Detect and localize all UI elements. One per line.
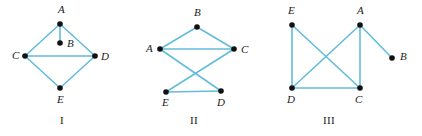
vertex-ii-C <box>231 46 237 52</box>
vertex-i-E <box>57 85 63 91</box>
vertex-label-iii-A: A <box>356 4 364 16</box>
vertex-label-ii-E: E <box>161 96 169 108</box>
edge-i-DE <box>60 56 95 88</box>
edge-iii-AB <box>360 25 392 58</box>
vertex-label-ii-C: C <box>241 43 249 55</box>
vertex-iii-D <box>289 85 295 91</box>
edge-i-AC <box>25 24 60 56</box>
vertex-label-i-C: C <box>12 49 20 61</box>
vertex-iii-C <box>357 85 363 91</box>
figure-captions-layer: IIIIII <box>60 114 335 126</box>
vertex-ii-E <box>163 89 169 95</box>
graph-figure: ABCDEBACEDEABDC IIIIII <box>0 0 422 136</box>
vertex-label-iii-D: D <box>286 93 295 105</box>
vertex-iii-A <box>357 22 363 28</box>
vertices-layer <box>22 21 395 95</box>
vertex-label-ii-A: A <box>145 42 153 54</box>
vertex-ii-A <box>157 46 163 52</box>
edge-i-CE <box>25 56 60 88</box>
vertex-label-ii-B: B <box>194 6 201 18</box>
vertex-label-iii-C: C <box>355 93 363 105</box>
edges-layer <box>25 24 392 92</box>
vertex-i-B <box>57 40 63 46</box>
vertex-i-C <box>22 53 28 59</box>
edge-ii-AD <box>160 49 221 91</box>
vertex-label-i-A: A <box>57 3 65 15</box>
edge-ii-CE <box>166 49 234 92</box>
edge-i-AD <box>60 24 95 56</box>
graph-canvas: ABCDEBACEDEABDC IIIIII <box>0 0 422 136</box>
edge-ii-BC <box>197 27 234 49</box>
vertex-label-i-B: B <box>67 37 74 49</box>
vertex-iii-B <box>389 55 395 61</box>
vertex-label-iii-B: B <box>400 50 407 62</box>
vertex-iii-E <box>289 22 295 28</box>
vertex-ii-D <box>218 88 224 94</box>
vertex-i-A <box>57 21 63 27</box>
edge-ii-AB <box>160 27 197 49</box>
vertex-label-ii-D: D <box>216 96 225 108</box>
graph-caption-i: I <box>60 114 64 126</box>
vertex-i-D <box>92 53 98 59</box>
vertex-label-i-E: E <box>56 93 64 105</box>
vertex-label-i-D: D <box>100 50 109 62</box>
vertex-ii-B <box>194 24 200 30</box>
edge-ii-ED <box>166 91 221 92</box>
graph-caption-iii: III <box>323 114 335 126</box>
graph-caption-ii: II <box>190 114 198 126</box>
vertex-label-iii-E: E <box>287 4 295 16</box>
